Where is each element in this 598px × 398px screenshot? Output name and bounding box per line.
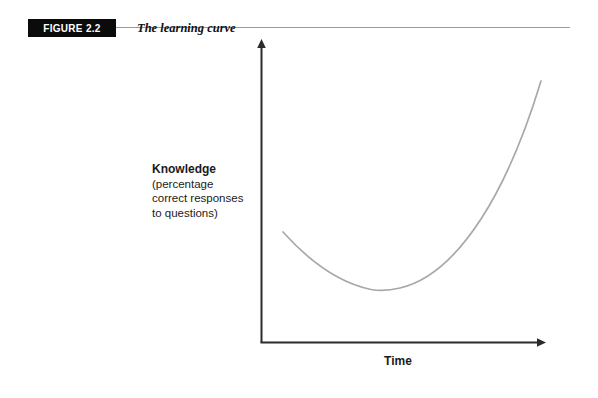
y-axis-label-line-2: (percentage <box>152 177 256 192</box>
y-axis-label: Knowledge (percentage correct responses … <box>152 162 256 220</box>
y-axis-arrow-icon <box>257 39 266 48</box>
y-axis-label-title: Knowledge <box>152 162 256 177</box>
y-axis-label-line-4: to questions) <box>152 206 256 221</box>
y-axis-label-line-3: correct responses <box>152 191 256 206</box>
learning-curve-chart <box>0 0 598 398</box>
x-axis-arrow-icon <box>537 338 546 347</box>
learning-curve-path <box>283 81 541 290</box>
x-axis-label: Time <box>330 354 466 368</box>
figure-page: FIGURE 2.2 The learning curve Knowledge … <box>0 0 598 398</box>
